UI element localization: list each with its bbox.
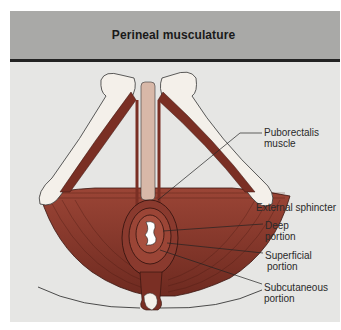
label-line: Deep	[265, 220, 296, 231]
label-external-sphincter: External sphincter	[256, 202, 336, 213]
left-pubic-ramus	[39, 73, 135, 205]
label-puborectalis: Puborectalis muscle	[264, 127, 319, 149]
label-line: Puborectalis	[264, 127, 319, 138]
label-line: portion	[265, 261, 312, 272]
label-line: portion	[265, 231, 296, 242]
right-pubic-ramus	[160, 72, 272, 206]
perineal-musculature-illustration	[0, 0, 341, 330]
label-subcutaneous-portion: Subcutaneous portion	[264, 282, 328, 304]
label-line: Subcutaneous	[264, 282, 328, 293]
label-line: portion	[264, 293, 328, 304]
label-line: Superficial	[265, 250, 312, 261]
left-ischiocavernosus	[60, 92, 136, 192]
label-deep-portion: Deep portion	[265, 220, 296, 242]
label-superficial-portion: Superficial portion	[265, 250, 312, 272]
midline-structure	[141, 82, 155, 200]
right-ischiocavernosus	[158, 92, 255, 192]
label-line: muscle	[264, 138, 319, 149]
